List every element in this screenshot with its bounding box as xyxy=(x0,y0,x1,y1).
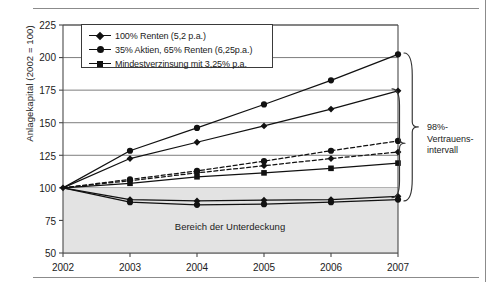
legend-item-0-label: 100% Renten (5,2 p.a.) xyxy=(115,31,206,41)
series-layer xyxy=(60,51,402,208)
confidence-interval-annotation: 98%- Vertrauens- intervall xyxy=(427,122,485,157)
legend-item-0[interactable]: 100% Renten (5,2 p.a.) xyxy=(89,29,206,42)
figure-root: Anlagekapital (2002 = 100) 225 200 175 1… xyxy=(0,0,492,282)
series-line xyxy=(63,163,398,188)
annotation-line-3: intervall xyxy=(427,145,485,157)
legend-item-2[interactable]: Mindestverzinsung mit 3,25% p.a. xyxy=(89,57,247,70)
annotation-line-1: 98%- xyxy=(427,122,485,134)
series-line xyxy=(63,54,398,188)
brace-layer xyxy=(392,53,418,201)
diamond-marker-icon xyxy=(89,30,111,41)
brace xyxy=(404,53,418,201)
series-line xyxy=(63,91,398,188)
series-line xyxy=(63,141,398,188)
circle-marker-icon xyxy=(89,44,111,55)
legend-item-1-label: 35% Aktien, 65% Renten (6,25p.a.) xyxy=(115,45,252,55)
legend: 100% Renten (5,2 p.a.) 35% Aktien, 65% R… xyxy=(81,24,273,68)
shaded-band-label: Bereich der Unterdeckung xyxy=(120,221,340,232)
square-marker-icon xyxy=(89,58,111,69)
legend-item-1[interactable]: 35% Aktien, 65% Renten (6,25p.a.) xyxy=(89,43,252,56)
annotation-line-2: Vertrauens- xyxy=(427,134,485,146)
series-line xyxy=(63,152,398,188)
legend-item-2-label: Mindestverzinsung mit 3,25% p.a. xyxy=(115,59,247,69)
